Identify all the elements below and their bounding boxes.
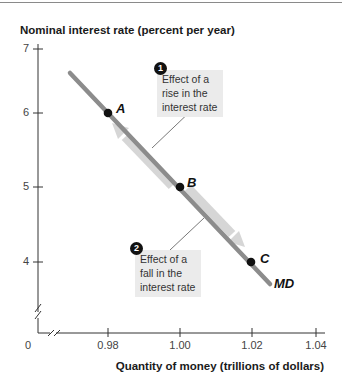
- callout-fall-line2: fall in the: [140, 266, 195, 280]
- callout-rise-line1: Effect of a: [162, 72, 217, 86]
- y-tick-4: 4: [15, 255, 29, 267]
- x-axis: [38, 328, 325, 337]
- callout-rise-number-badge: 1: [154, 62, 167, 75]
- callout-fall-line1: Effect of a: [140, 252, 195, 266]
- point-c-label: C: [260, 251, 269, 266]
- x-axis-title: Quantity of money (trillions of dollars): [116, 360, 324, 372]
- x-tick-104: 1.04: [296, 339, 336, 351]
- point-c: [247, 258, 256, 267]
- point-b: [176, 183, 185, 192]
- md-curve-label: MD: [274, 276, 294, 291]
- callout-fall-line3: interest rate: [140, 280, 195, 294]
- callout2-leader: [170, 218, 204, 250]
- x-tick-100: 1.00: [160, 339, 200, 351]
- y-tick-5: 5: [15, 180, 29, 192]
- x-tick-098: 0.98: [88, 339, 128, 351]
- x-tick-102: 1.02: [232, 339, 272, 351]
- y-axis: [33, 44, 43, 333]
- callout-rise: Effect of a rise in the interest rate: [157, 70, 223, 117]
- y-tick-6: 6: [15, 106, 29, 118]
- chart-plot: [0, 0, 342, 385]
- callout-fall: Effect of a fall in the interest rate: [135, 250, 201, 297]
- point-a: [104, 109, 113, 118]
- point-a-label: A: [116, 101, 125, 116]
- callout-fall-number-badge: 2: [130, 242, 143, 255]
- y-tick-7: 7: [15, 42, 29, 54]
- x-tick-0: 0: [8, 339, 48, 351]
- point-b-label: B: [187, 175, 196, 190]
- y-axis-title: Nominal interest rate (percent per year): [20, 24, 235, 36]
- callout-rise-line2: rise in the: [162, 86, 217, 100]
- callout-rise-line3: interest rate: [162, 100, 217, 114]
